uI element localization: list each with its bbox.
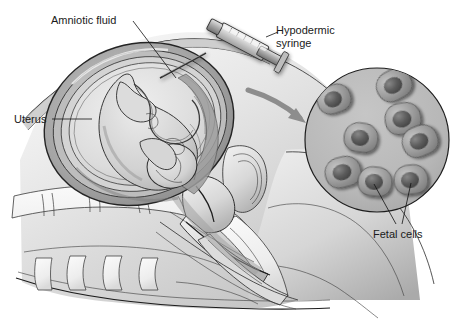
label-hypodermic-syringe-line1: Hypodermic (276, 24, 335, 36)
illustration-canvas: Amniotic fluid Hypodermic syringe Uterus… (0, 0, 464, 319)
label-fetal-cells: Fetal cells (373, 228, 423, 240)
label-amniotic-fluid: Amniotic fluid (51, 14, 116, 26)
label-hypodermic-syringe-line2: syringe (276, 37, 311, 49)
amniocentesis-figure: Amniotic fluid Hypodermic syringe Uterus… (0, 0, 464, 319)
label-uterus: Uterus (14, 113, 47, 125)
